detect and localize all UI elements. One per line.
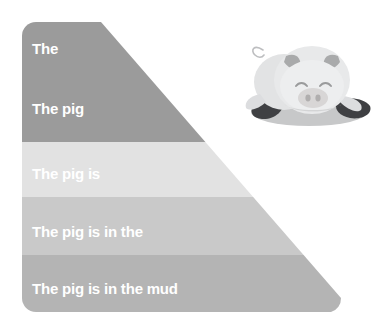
band-rect-2 [22, 142, 346, 197]
pig-nostril-right [315, 95, 320, 102]
pig-in-mud-icon [240, 28, 382, 133]
pig-illustration [240, 28, 382, 133]
pig-tail [253, 47, 264, 57]
pig-nostril-left [305, 95, 310, 102]
band-rect-3 [22, 197, 346, 255]
diagram-canvas: The The pig The pig is The pig is in the… [0, 0, 382, 335]
pig-snout [298, 88, 328, 108]
band-rect-4 [22, 255, 346, 312]
